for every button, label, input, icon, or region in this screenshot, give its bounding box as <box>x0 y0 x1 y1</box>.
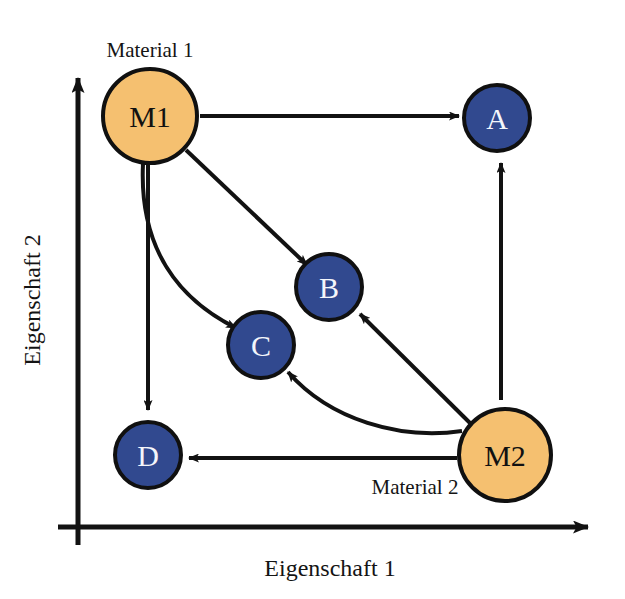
edge-m2-to-b <box>360 314 470 423</box>
node-m2[interactable]: M2 <box>459 409 551 501</box>
x-axis-label: Eigenschaft 1 <box>264 555 395 581</box>
annotation-material-1: Material 1 <box>107 38 194 62</box>
node-m1-label: M1 <box>129 100 171 133</box>
node-d-label: D <box>137 439 159 472</box>
node-m1[interactable]: M1 <box>103 69 197 163</box>
material-property-diagram: M1 M2 A B C D Material 1 Material 2 Eige… <box>0 0 625 599</box>
y-axis-label: Eigenschaft 2 <box>19 234 45 365</box>
node-b[interactable]: B <box>296 254 362 320</box>
node-d[interactable]: D <box>115 422 181 488</box>
node-m2-label: M2 <box>484 439 526 472</box>
node-c-label: C <box>251 329 271 362</box>
node-b-label: B <box>319 271 339 304</box>
diagram-canvas: M1 M2 A B C D Material 1 Material 2 Eige… <box>0 0 625 599</box>
node-c[interactable]: C <box>228 312 294 378</box>
edge-m2-to-c <box>288 372 462 433</box>
edge-m1-to-c <box>143 164 236 328</box>
node-a-label: A <box>486 102 508 135</box>
annotation-material-2: Material 2 <box>372 475 459 499</box>
node-a[interactable]: A <box>464 85 530 151</box>
edge-m1-to-b <box>186 150 307 265</box>
